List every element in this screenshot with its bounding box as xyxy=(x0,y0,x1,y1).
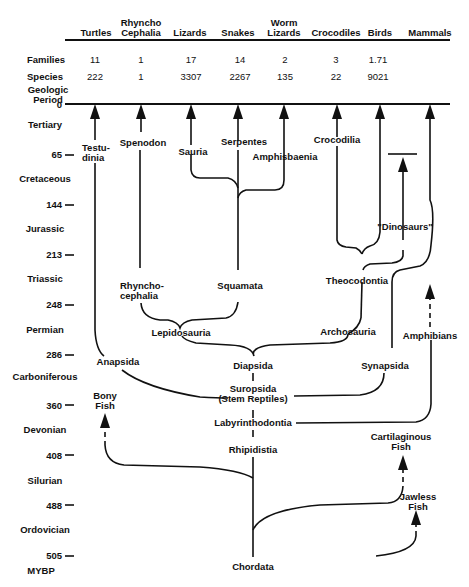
taxon-theocodontia: Theocodontia xyxy=(326,276,388,286)
taxon-crocodilia: Crocodilia xyxy=(314,135,360,145)
taxon-synapsida: Synapsida xyxy=(361,361,409,371)
taxon-spenodon: Spenodon xyxy=(120,138,166,148)
taxon-squamata: Squamata xyxy=(217,281,262,291)
taxon-diapsida: Diapsida xyxy=(233,361,273,371)
taxon-stem-reptiles: (Stem Reptiles) xyxy=(218,394,287,404)
taxon-dinosaurs: "Dinosaurs" xyxy=(377,222,432,232)
taxon-labyrinthodontia: Labyrinthodontia xyxy=(214,418,292,428)
taxon-archosauria: Archosauria xyxy=(320,327,375,337)
taxon-chordata: Chordata xyxy=(232,562,274,572)
taxon-rhynchocephalia: Rhyncho- cephalia xyxy=(120,281,164,301)
taxon-serpentes: Serpentes xyxy=(221,137,267,147)
taxon-amphibians: Amphibians xyxy=(403,331,457,341)
taxon-sauria: Sauria xyxy=(178,147,207,157)
taxon-jawless-fish: Jawless Fish xyxy=(400,492,436,512)
phylogeny-lines xyxy=(0,0,469,587)
taxon-lepidosauria: Lepidosauria xyxy=(151,328,210,338)
taxon-rhipidistia: Rhipidistia xyxy=(229,445,278,455)
taxon-amphisbaenia: Amphisbaenia xyxy=(253,152,318,162)
taxon-cartilaginous-fish: Cartilaginous Fish xyxy=(371,432,432,452)
taxon-bony-fish: Bony Fish xyxy=(93,391,117,411)
taxon-anapsida: Anapsida xyxy=(97,357,140,367)
taxon-testudinia: Testu- dinia xyxy=(82,143,110,163)
